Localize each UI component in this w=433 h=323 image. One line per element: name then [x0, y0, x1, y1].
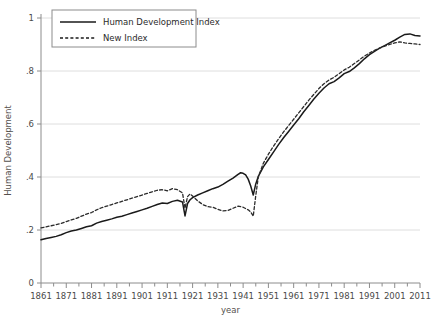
axes [41, 14, 420, 283]
x-axis-ticks: 1861187118811891190119111921193119411951… [30, 283, 431, 301]
legend: Human Development IndexNew Index [52, 10, 220, 47]
y-tick-label: .2 [26, 225, 34, 235]
y-tick-label: 1 [29, 13, 34, 23]
x-tick-label: 1961 [283, 291, 305, 301]
x-tick-label: 1991 [359, 291, 381, 301]
x-tick-label: 2011 [409, 291, 431, 301]
data-series-group [41, 34, 420, 240]
human-development-line-chart: 0.2.4.6.81186118711881189119011911192119… [0, 0, 433, 323]
x-tick-label: 1921 [182, 291, 204, 301]
x-tick-label: 1971 [308, 291, 330, 301]
y-tick-label: .4 [26, 172, 34, 182]
y-tick-label: .8 [26, 66, 34, 76]
y-tick-label: .6 [26, 119, 34, 129]
gridlines [41, 18, 420, 230]
x-tick-label: 1881 [81, 291, 103, 301]
y-axis-ticks: 0.2.4.6.81 [26, 13, 41, 288]
x-axis-title: year [221, 305, 240, 315]
series-line-new-index [41, 42, 420, 228]
x-tick-label: 1861 [30, 291, 52, 301]
x-tick-label: 1891 [106, 291, 128, 301]
legend-label: New Index [103, 33, 148, 43]
x-tick-label: 1941 [232, 291, 254, 301]
x-tick-label: 1931 [207, 291, 229, 301]
legend-label: Human Development Index [103, 17, 220, 27]
x-tick-label: 1911 [157, 291, 179, 301]
x-tick-label: 1981 [333, 291, 355, 301]
x-tick-label: 1871 [55, 291, 77, 301]
x-tick-label: 1901 [131, 291, 153, 301]
chart-container: 0.2.4.6.81186118711881189119011911192119… [0, 0, 433, 323]
y-axis-title: Human Development [3, 105, 13, 196]
x-tick-label: 2001 [384, 291, 406, 301]
y-tick-label: 0 [29, 278, 34, 288]
x-tick-label: 1951 [258, 291, 280, 301]
